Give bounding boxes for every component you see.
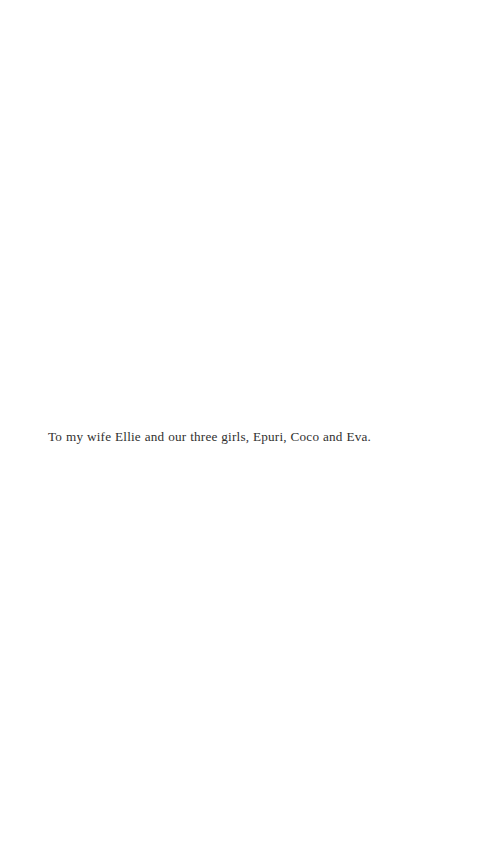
dedication-text: To my wife Ellie and our three girls, Ep… <box>48 428 438 446</box>
dedication-block: To my wife Ellie and our three girls, Ep… <box>48 415 438 459</box>
document-page: To my wife Ellie and our three girls, Ep… <box>0 0 483 864</box>
page-content-area: To my wife Ellie and our three girls, Ep… <box>0 0 483 864</box>
